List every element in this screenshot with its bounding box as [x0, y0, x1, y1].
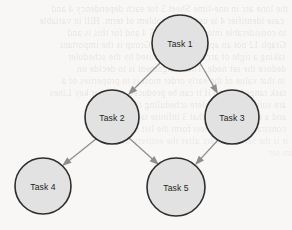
edge-task2-to-task4 — [62, 139, 96, 166]
edge-task3-to-task5 — [195, 140, 218, 165]
diagram-canvas: the lone arc in one-lime Sheet 5 for eac… — [0, 0, 292, 230]
arrowhead-icon — [210, 84, 218, 94]
node-task3[interactable]: Task 3 — [205, 90, 259, 144]
arrowhead-icon — [62, 157, 72, 166]
task-dependency-graph: Task 1Task 2Task 3Task 4Task 5 — [0, 0, 292, 230]
node-label: Task 4 — [30, 182, 56, 192]
edge-task1-to-task3 — [200, 63, 218, 94]
nodes-group: Task 1Task 2Task 3Task 4Task 5 — [15, 15, 259, 216]
node-task1[interactable]: Task 1 — [152, 15, 208, 71]
node-task2[interactable]: Task 2 — [85, 90, 139, 144]
node-label: Task 2 — [99, 113, 125, 123]
edge-task1-to-task2 — [128, 63, 160, 95]
node-label: Task 3 — [219, 113, 245, 123]
node-task5[interactable]: Task 5 — [147, 158, 205, 216]
node-label: Task 5 — [163, 183, 189, 193]
edge-task2-to-task5 — [129, 138, 159, 165]
node-label: Task 1 — [167, 39, 193, 49]
node-task4[interactable]: Task 4 — [15, 158, 71, 214]
